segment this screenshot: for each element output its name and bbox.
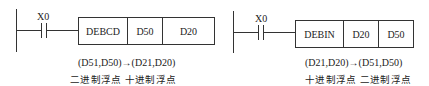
instruction-name: DEBCD xyxy=(79,18,127,44)
contact-label: X0 xyxy=(37,12,49,22)
transfer-note: (D21,D20)→(D51,D50) xyxy=(305,57,402,68)
source-operand: D50 xyxy=(127,18,162,44)
transfer-note: (D51,D50)→(D21,D20) xyxy=(78,57,175,68)
instruction-block: DEBCD D50 D20 xyxy=(78,17,215,45)
contact-label: X0 xyxy=(255,14,267,24)
destination-operand: D50 xyxy=(378,21,413,47)
instruction-block: DEBIN D20 D50 xyxy=(295,20,414,48)
format-note: 十进制浮点 二进制浮点 xyxy=(305,74,411,85)
source-operand: D20 xyxy=(343,21,378,47)
format-note: 二进制浮点 十进制浮点 xyxy=(70,74,176,85)
destination-operand: D20 xyxy=(162,18,214,44)
instruction-name: DEBIN xyxy=(296,21,343,47)
